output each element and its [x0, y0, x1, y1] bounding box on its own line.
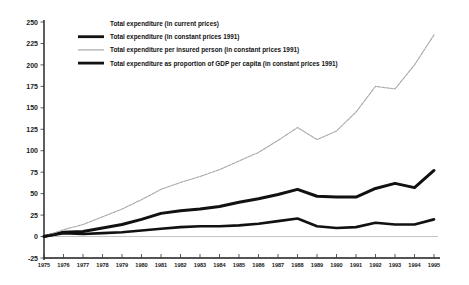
x-tick-label: 1988: [291, 262, 303, 268]
y-tick-label: 150: [26, 104, 38, 111]
x-tick-label: 1979: [116, 262, 128, 268]
y-tick-label: 25: [30, 212, 38, 219]
y-tick-label: 50: [30, 190, 38, 197]
y-tick-label: 175: [26, 83, 38, 90]
x-tick-label: 1992: [369, 262, 381, 268]
x-tick-label: 1990: [330, 262, 342, 268]
y-tick-label: 250: [26, 19, 38, 26]
x-tick-label: 1995: [428, 262, 440, 268]
y-tick-label: 125: [26, 126, 38, 133]
line-chart: 2502252001751501251007550250-25 19751976…: [0, 0, 469, 285]
x-tick-label: 1976: [57, 262, 69, 268]
x-tick-label: 1981: [155, 262, 167, 268]
x-tick-label: 1978: [96, 262, 108, 268]
legend-label-3: Total expenditure as proportion of GDP p…: [110, 60, 338, 68]
x-tick-label: 1991: [350, 262, 362, 268]
legend-label-1: Total expenditure (in constant prices 19…: [110, 33, 240, 41]
x-tick-label: 1985: [233, 262, 245, 268]
legend-label-2: Total expenditure per insured person (in…: [110, 46, 299, 54]
x-tick-label: 1977: [77, 262, 89, 268]
x-tick-label: 1983: [194, 262, 206, 268]
x-tick-label: 1987: [272, 262, 284, 268]
x-tick-label: 1986: [252, 262, 264, 268]
y-tick-label: 75: [30, 169, 38, 176]
x-tick-label: 1975: [38, 262, 50, 268]
chart-canvas: 2502252001751501251007550250-25 19751976…: [0, 0, 469, 285]
x-tick-label: 1994: [408, 262, 421, 268]
x-tick-label: 1984: [213, 262, 226, 268]
chart-background: [0, 0, 469, 285]
x-tick-label: 1980: [135, 262, 147, 268]
legend-label-0: Total expenditure (in current prices): [110, 20, 219, 28]
y-tick-label: 0: [34, 233, 38, 240]
y-tick-label: 200: [26, 62, 38, 69]
x-tick-label: 1993: [389, 262, 401, 268]
x-tick-label: 1982: [174, 262, 186, 268]
y-tick-label: -25: [28, 255, 38, 262]
y-tick-label: 225: [26, 40, 38, 47]
y-tick-label: 100: [26, 147, 38, 154]
x-tick-label: 1989: [311, 262, 323, 268]
